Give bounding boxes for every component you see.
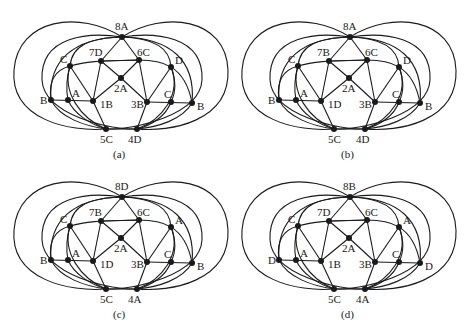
node-right-upper (168, 64, 174, 70)
label-bottom-right: 4A (128, 293, 142, 305)
label-upper-right-inner: 6C (137, 46, 150, 58)
node-center (346, 75, 352, 81)
label-right-mid: 3B (131, 98, 144, 110)
label-bottom-left: 5C (328, 293, 341, 305)
graph-diagram: 8A 7D 6C C D 2A B A 1B 3B C B 5C 4D (a) (0, 0, 232, 160)
node-top (347, 34, 353, 40)
node-top (119, 194, 125, 200)
edge (121, 60, 139, 78)
node-right-outer (189, 100, 195, 106)
edge (101, 197, 122, 221)
node-left-mid (318, 98, 324, 104)
panel-a: 8A 7D 6C C D 2A B A 1B 3B C B 5C 4D (a) (0, 0, 232, 160)
node-left-upper (67, 223, 73, 229)
node-bottom-right (362, 126, 368, 132)
node-left-inner (293, 257, 299, 263)
label-upper-left-inner: 7B (317, 46, 330, 58)
label-upper-right-inner: 6C (365, 46, 378, 58)
label-right-upper: A (403, 214, 411, 226)
label-bottom-right: 4D (356, 133, 370, 145)
label-right-upper: D (175, 54, 183, 66)
node-center (346, 235, 352, 241)
label-right-mid: 3B (359, 258, 372, 270)
label-right-inner: C (164, 88, 171, 100)
node-right-outer (189, 260, 195, 266)
graph-diagram: 8B 7D 6C C A 2A D A 1B 3B C D 5C 4A (d) (228, 160, 460, 320)
node-right-outer (417, 100, 423, 106)
label-right-inner: C (392, 88, 399, 100)
node-left-upper (67, 63, 73, 69)
node-bottom-left (331, 286, 337, 292)
node-left-outer (276, 97, 282, 103)
panel-caption: (d) (341, 308, 354, 321)
node-right-mid (372, 99, 378, 105)
label-right-inner: C (164, 248, 171, 260)
label-left-mid: 1B (328, 258, 341, 270)
edge (350, 197, 420, 263)
panel-caption: (c) (113, 308, 126, 321)
label-right-mid: 3B (359, 98, 372, 110)
label-left-mid: 1B (100, 98, 113, 110)
label-upper-left-inner: 7D (89, 46, 103, 58)
edge (279, 100, 321, 101)
graph-diagram: 8D 7B 6C C A 2A B A 1D 3B C B 5C 4A (c) (0, 160, 232, 320)
node-left-outer (48, 257, 54, 263)
node-upper-left-inner (326, 218, 332, 224)
label-bottom-right: 4D (128, 133, 142, 145)
node-bottom-right (362, 286, 368, 292)
node-center (118, 75, 124, 81)
edge (122, 37, 192, 103)
node-left-mid (90, 98, 96, 104)
edge (349, 220, 367, 238)
label-left-upper: C (60, 53, 67, 65)
edge (51, 100, 93, 101)
label-center: 2A (114, 242, 128, 254)
node-upper-left-inner (98, 58, 104, 64)
label-left-inner: A (72, 87, 80, 99)
label-center: 2A (342, 242, 356, 254)
label-right-outer: D (425, 260, 433, 272)
node-center (118, 235, 124, 241)
edge (329, 37, 350, 61)
node-bottom-left (103, 286, 109, 292)
node-right-upper (396, 64, 402, 70)
node-left-outer (276, 257, 282, 263)
label-right-inner: C (392, 248, 399, 260)
label-upper-left-inner: 7B (89, 206, 102, 218)
edge (279, 260, 321, 261)
node-left-inner (65, 97, 71, 103)
label-left-outer: B (40, 94, 47, 106)
edge (101, 37, 122, 61)
node-upper-left-inner (98, 218, 104, 224)
node-right-mid (144, 99, 150, 105)
node-left-outer (48, 97, 54, 103)
node-bottom-right (134, 126, 140, 132)
edge (101, 60, 139, 61)
node-right-outer (417, 260, 423, 266)
label-bottom-left: 5C (328, 133, 341, 145)
node-right-upper (168, 224, 174, 230)
label-left-outer: B (268, 94, 275, 106)
label-left-upper: C (288, 213, 295, 225)
label-upper-right-inner: 6C (137, 206, 150, 218)
edge (101, 221, 121, 238)
node-left-mid (318, 258, 324, 264)
node-right-upper (396, 224, 402, 230)
edge (101, 220, 139, 221)
node-left-inner (65, 257, 71, 263)
node-right-mid (372, 259, 378, 265)
node-left-mid (90, 258, 96, 264)
label-top: 8A (115, 20, 129, 32)
node-bottom-right (134, 286, 140, 292)
label-left-outer: B (40, 254, 47, 266)
label-left-inner: A (300, 247, 308, 259)
label-center: 2A (342, 82, 356, 94)
label-left-upper: C (60, 213, 67, 225)
edge (121, 220, 139, 238)
label-left-upper: C (288, 53, 295, 65)
edge (329, 197, 350, 221)
edge (350, 37, 420, 103)
label-bottom-left: 5C (100, 293, 113, 305)
label-right-outer: B (197, 100, 204, 112)
panel-d: 8B 7D 6C C A 2A D A 1B 3B C D 5C 4A (d) (228, 160, 460, 320)
